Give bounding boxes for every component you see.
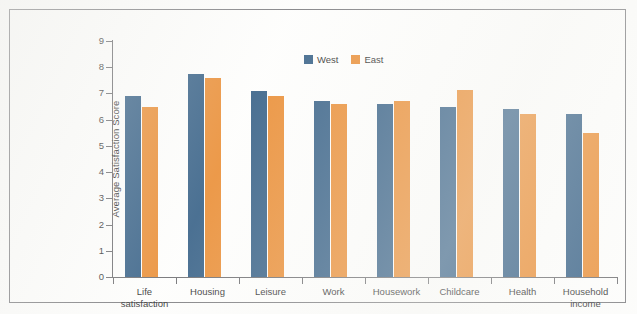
y-axis-tick xyxy=(106,172,113,173)
y-axis-tick-label: 7 xyxy=(80,88,104,98)
y-axis-tick-label: 5 xyxy=(80,141,104,151)
x-axis-tick xyxy=(554,278,555,284)
bar-east xyxy=(142,107,158,277)
x-axis-group-label: Housework xyxy=(365,286,428,298)
bar-west xyxy=(566,114,582,277)
x-axis-group-label: Health xyxy=(491,286,554,298)
x-axis-group-label: Leisure xyxy=(239,286,302,298)
bar-east xyxy=(520,114,536,277)
bar-west xyxy=(251,91,267,277)
bar-east xyxy=(394,101,410,277)
bar-west xyxy=(440,107,456,277)
y-axis-tick xyxy=(106,146,113,147)
bar-west xyxy=(125,96,141,277)
y-axis-tick xyxy=(106,198,113,199)
y-axis-tick xyxy=(106,93,113,94)
bar-east xyxy=(583,133,599,277)
y-axis-tick-label: 0 xyxy=(80,272,104,282)
bar-east xyxy=(268,96,284,277)
y-axis-tick-label: 2 xyxy=(80,220,104,230)
x-axis-group-label: Work xyxy=(302,286,365,298)
plot-area: Average Satisfaction Score xyxy=(113,41,617,277)
y-axis-tick xyxy=(106,120,113,121)
bar-west xyxy=(314,101,330,277)
chart-page: West East Average Satisfaction Score 012… xyxy=(0,0,637,314)
x-axis-tick xyxy=(428,278,429,284)
x-axis-tick xyxy=(617,278,618,284)
y-axis-tick-label: 4 xyxy=(80,167,104,177)
y-axis-tick-label: 3 xyxy=(80,193,104,203)
bar-east xyxy=(331,104,347,277)
x-axis-group-label: Household income xyxy=(554,286,617,309)
x-axis-group-label: Housing xyxy=(176,286,239,298)
x-axis-tick xyxy=(176,278,177,284)
x-axis-tick xyxy=(491,278,492,284)
y-axis-tick-label: 8 xyxy=(80,62,104,72)
bar-east xyxy=(205,78,221,277)
y-axis-title: Average Satisfaction Score xyxy=(110,100,121,217)
x-axis-group-label: Life satisfaction xyxy=(113,286,176,309)
x-axis-tick xyxy=(302,278,303,284)
y-axis-tick xyxy=(106,277,113,278)
bar-east xyxy=(457,90,473,277)
x-axis-tick xyxy=(365,278,366,284)
y-axis-tick xyxy=(106,67,113,68)
y-axis-tick xyxy=(106,225,113,226)
bar-west xyxy=(503,109,519,277)
y-axis-tick xyxy=(106,251,113,252)
chart-frame: West East Average Satisfaction Score 012… xyxy=(9,9,626,303)
x-axis-group-label: Childcare xyxy=(428,286,491,298)
bar-west xyxy=(377,104,393,277)
y-axis-tick-label: 9 xyxy=(80,36,104,46)
x-axis-tick xyxy=(239,278,240,284)
bar-west xyxy=(188,74,204,277)
y-axis-tick xyxy=(106,41,113,42)
y-axis-tick-label: 1 xyxy=(80,246,104,256)
y-axis-tick-label: 6 xyxy=(80,115,104,125)
x-axis-tick xyxy=(113,278,114,284)
